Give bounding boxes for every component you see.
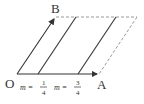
label-m2-denominator: 4: [76, 89, 80, 97]
label-m1-denominator: 4: [42, 89, 46, 97]
label-b: B: [51, 1, 60, 16]
vector-ob: [17, 19, 54, 74]
line-m-three-quarter: [78, 17, 116, 74]
label-a: A: [97, 77, 107, 92]
label-m1-prefix: m =: [20, 83, 33, 92]
label-m2-numerator: 3: [76, 79, 80, 87]
dashed-right-edge: [99, 17, 137, 74]
label-origin: O: [5, 76, 14, 91]
line-m-quarter: [38, 17, 76, 74]
label-m2-prefix: m =: [54, 83, 67, 92]
parallelogram-diagram: O A B m = 1 4 m = 3 4: [0, 0, 144, 104]
label-m1-numerator: 1: [42, 79, 46, 87]
